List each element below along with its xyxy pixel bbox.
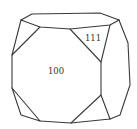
triangle-111-right-edge <box>101 25 110 62</box>
crystal-edges <box>12 13 130 123</box>
face-label-111: 111 <box>85 33 101 43</box>
octagon-100-right <box>70 29 101 123</box>
back-top-edge <box>21 13 119 20</box>
top-face-front-edge <box>21 20 119 29</box>
bottom-right-corner-edge <box>101 95 110 119</box>
crystal-diagram: 100 111 <box>0 0 137 129</box>
bottom-left-corner-triangle <box>12 88 40 121</box>
face-label-100: 100 <box>48 66 64 76</box>
right-side-outline <box>110 20 130 119</box>
